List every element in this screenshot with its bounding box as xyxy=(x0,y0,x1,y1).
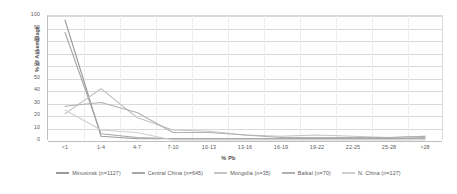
series-line xyxy=(65,33,425,139)
legend-label: Baikal (n=70) xyxy=(298,170,331,176)
legend-item[interactable]: Mongolia (n=35) xyxy=(214,170,271,176)
gridline xyxy=(48,141,442,142)
legend-label: N. China (n=127) xyxy=(358,170,401,176)
y-tick-label: 70 xyxy=(0,50,40,55)
series-line xyxy=(65,89,425,138)
chart-container: % of Assemblage 0102030405060708090100 <… xyxy=(0,0,457,194)
legend-item[interactable]: Baikal (n=70) xyxy=(282,170,331,176)
series-line xyxy=(65,20,425,139)
x-axis-title: % Pb xyxy=(0,155,457,161)
legend-label: Minusinsk (n=1127) xyxy=(72,170,121,176)
y-tick-label: 80 xyxy=(0,37,40,42)
data-series-lines xyxy=(47,15,443,140)
y-tick-label: 90 xyxy=(0,25,40,30)
y-tick-label: 60 xyxy=(0,62,40,67)
y-tick-label: 0 xyxy=(0,137,40,142)
legend-line-icon xyxy=(214,172,227,173)
chart-legend: Minusinsk (n=1127)Central China (n=645)M… xyxy=(0,170,457,176)
legend-item[interactable]: N. China (n=127) xyxy=(342,170,401,176)
legend-item[interactable]: Central China (n=645) xyxy=(132,170,203,176)
legend-line-icon xyxy=(56,172,69,173)
y-tick-label: 30 xyxy=(0,100,40,105)
legend-item[interactable]: Minusinsk (n=1127) xyxy=(56,170,121,176)
y-tick-label: 50 xyxy=(0,75,40,80)
y-tick-label: 40 xyxy=(0,87,40,92)
y-tick-label: 20 xyxy=(0,112,40,117)
y-tick-label: 10 xyxy=(0,125,40,130)
legend-line-icon xyxy=(342,172,355,173)
legend-label: Mongolia (n=35) xyxy=(230,170,271,176)
series-line xyxy=(65,103,425,138)
y-tick-label: 100 xyxy=(0,12,40,17)
x-tick-label: >28 xyxy=(403,144,447,150)
legend-line-icon xyxy=(282,172,295,173)
legend-line-icon xyxy=(132,172,145,173)
legend-label: Central China (n=645) xyxy=(148,170,203,176)
